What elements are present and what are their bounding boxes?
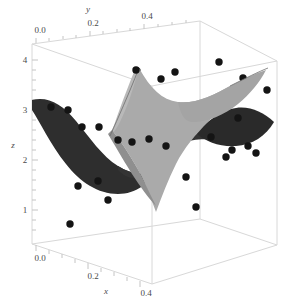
- scatter-point: [74, 182, 81, 189]
- plot-canvas: 0.0 0.2 0.4 y 4 3 2 1 z: [0, 0, 284, 301]
- z-axis-ticks: [32, 60, 38, 230]
- scatter-point: [94, 177, 101, 184]
- scatter-point: [244, 142, 251, 149]
- scatter-point: [182, 173, 189, 180]
- z-tick-label-3: 3: [23, 105, 28, 115]
- scatter-point: [78, 123, 85, 130]
- scatter-point: [215, 58, 222, 65]
- scatter-point: [252, 149, 259, 156]
- y-tick-label-0: 0.0: [34, 25, 46, 35]
- z-tick-label-4: 4: [23, 55, 28, 65]
- scatter-point: [66, 220, 73, 227]
- scatter-point: [192, 203, 199, 210]
- z-tick-label-2: 2: [23, 155, 28, 165]
- x-tick-label-1: 0.2: [87, 271, 98, 281]
- x-tick-label-2: 0.4: [140, 288, 152, 298]
- scatter-point: [128, 138, 135, 145]
- scatter-point: [228, 146, 235, 153]
- z-axis-label: z: [10, 140, 15, 150]
- scatter-point: [222, 153, 229, 160]
- surface-3d: [32, 68, 274, 212]
- scatter-point: [132, 66, 139, 73]
- y-tick-label-2: 0.4: [141, 11, 153, 21]
- scatter-point: [104, 196, 111, 203]
- scatter-point: [162, 142, 169, 149]
- scatter-point: [171, 68, 178, 75]
- box-edge-bottom-back-right: [200, 219, 277, 245]
- scatter-point: [64, 106, 71, 113]
- scatter-point: [234, 114, 241, 121]
- scatter-point: [95, 123, 102, 130]
- y-axis-label: y: [85, 4, 90, 14]
- scatter-point: [145, 135, 152, 142]
- box-edge-bottom-front-right: [152, 245, 277, 284]
- box-edge-top-back-right: [200, 21, 277, 61]
- y-tick-label-1: 0.2: [87, 18, 98, 28]
- scatter-point: [47, 103, 54, 110]
- plot-3d-surface-scatter: 0.0 0.2 0.4 y 4 3 2 1 z: [0, 0, 284, 301]
- z-tick-label-1: 1: [23, 205, 28, 215]
- x-tick-label-0: 0.0: [34, 253, 46, 263]
- box-edge-top-back-left: [32, 21, 200, 44]
- y-axis-ticks: [36, 20, 186, 43]
- scatter-point: [157, 75, 164, 82]
- scatter-point: [207, 133, 214, 140]
- scatter-point: [114, 136, 121, 143]
- scatter-point: [263, 86, 270, 93]
- box-edge-bottom-back-left: [32, 219, 200, 244]
- x-axis-label: x: [103, 286, 108, 296]
